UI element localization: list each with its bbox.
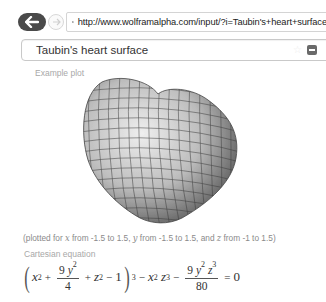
minus-square-icon — [309, 49, 315, 51]
forward-button[interactable] — [48, 14, 64, 30]
address-bar[interactable]: http://www.wolframalpha.com/input/?i=Tau… — [66, 12, 326, 32]
search-query-text: Taubin's heart surface — [36, 44, 148, 56]
url-text: http://www.wolframalpha.com/input/?i=Tau… — [78, 17, 326, 27]
arrow-left-icon — [25, 16, 39, 28]
clear-button[interactable] — [307, 45, 317, 55]
search-input[interactable]: Taubin's heart surface ☆ — [21, 39, 326, 61]
cartesian-equation: ( x2 + 9 y24 + z2 − 1 )3 − x2 z3 − 9 y2 … — [22, 257, 240, 297]
browser-toolbar: http://www.wolframalpha.com/input/?i=Tau… — [0, 0, 326, 34]
arrow-right-icon — [52, 18, 61, 26]
star-icon[interactable]: ☆ — [293, 44, 302, 55]
plot-range-caption: (plotted for x from -1.5 to 1.5, y from … — [23, 233, 276, 243]
back-button[interactable] — [18, 13, 46, 31]
gear-icon — [72, 17, 74, 27]
heart-surface-plot — [40, 72, 270, 227]
